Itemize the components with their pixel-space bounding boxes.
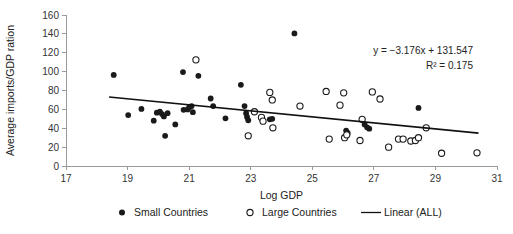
r-squared-label: R² = 0.175 (426, 60, 473, 71)
data-point-small-country (223, 115, 229, 121)
y-tick-label: 160 (42, 10, 59, 21)
data-point-small-country (139, 106, 145, 112)
data-point-large-country (357, 137, 363, 143)
data-point-small-country (195, 73, 201, 79)
data-point-small-country (416, 105, 422, 111)
data-point-large-country (270, 125, 276, 131)
data-point-small-country (165, 110, 171, 116)
data-point-large-country (193, 57, 199, 63)
x-tick-label: 23 (245, 173, 257, 184)
data-point-large-country (369, 89, 375, 95)
data-point-large-country (400, 136, 406, 142)
data-point-large-country (245, 133, 251, 139)
data-point-large-country (267, 89, 273, 95)
data-point-large-country (386, 144, 392, 150)
y-tick-label: 120 (42, 47, 59, 58)
y-tick-label: 140 (42, 28, 59, 39)
x-tick-label: 31 (491, 173, 503, 184)
x-tick-label: 17 (60, 173, 72, 184)
x-tick-label: 21 (184, 173, 196, 184)
data-point-small-country (190, 109, 196, 115)
scatter-chart: 0204060801001201401601719212325272931Log… (0, 0, 513, 234)
data-point-small-country (151, 118, 157, 124)
data-point-small-country (242, 103, 248, 109)
chart-canvas: 0204060801001201401601719212325272931Log… (0, 0, 513, 234)
data-point-large-country (377, 96, 383, 102)
data-point-small-country (238, 82, 244, 88)
data-point-small-country (208, 96, 214, 102)
data-point-small-country (269, 116, 275, 122)
data-point-small-country (111, 72, 117, 78)
y-axis-title: Average imports/GDP ration (4, 25, 16, 156)
data-point-large-country (415, 135, 421, 141)
data-point-large-country (297, 103, 303, 109)
x-axis-title: Log GDP (260, 189, 303, 201)
data-point-large-country (323, 88, 329, 94)
x-tick-label: 27 (368, 173, 380, 184)
legend-label-small-countries: Small Countries (134, 206, 208, 218)
y-tick-label: 0 (53, 161, 59, 172)
data-point-large-country (269, 97, 275, 103)
legend-marker-large-countries (247, 209, 253, 215)
data-point-small-country (180, 69, 186, 75)
legend-marker-small-countries (119, 210, 125, 216)
y-tick-label: 60 (48, 104, 60, 115)
data-point-small-country (292, 31, 298, 37)
y-tick-label: 20 (48, 142, 60, 153)
data-point-large-country (438, 150, 444, 156)
y-tick-label: 40 (48, 123, 60, 134)
data-point-small-country (245, 117, 251, 123)
data-point-large-country (337, 102, 343, 108)
x-tick-label: 25 (307, 173, 319, 184)
regression-equation-label: y = −3.176x + 131.547 (373, 45, 473, 56)
x-tick-label: 29 (430, 173, 442, 184)
data-point-small-country (366, 126, 372, 132)
y-tick-label: 80 (48, 85, 60, 96)
data-point-small-country (125, 112, 131, 118)
data-point-large-country (341, 90, 347, 96)
x-tick-label: 19 (122, 173, 134, 184)
y-tick-label: 100 (42, 66, 59, 77)
data-point-large-country (344, 132, 350, 138)
legend-label-large-countries: Large Countries (262, 206, 337, 218)
legend-label-linear-all: Linear (ALL) (384, 206, 442, 218)
data-point-large-country (474, 150, 480, 156)
data-point-small-country (162, 133, 168, 139)
data-point-large-country (260, 118, 266, 124)
data-point-small-country (172, 122, 178, 128)
data-point-large-country (326, 136, 332, 142)
